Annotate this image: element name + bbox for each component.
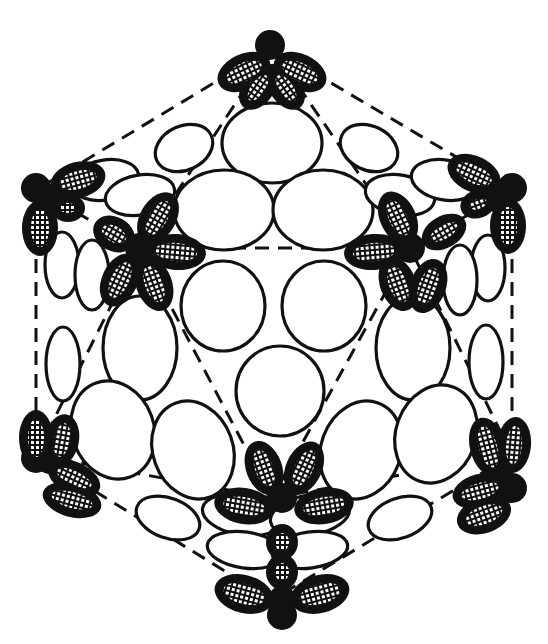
capsid-diagram bbox=[0, 0, 548, 644]
hatched-petal bbox=[499, 207, 517, 245]
penton-base-knob bbox=[267, 483, 297, 513]
penton-base-knob bbox=[21, 173, 51, 203]
hatched-petal bbox=[275, 563, 289, 581]
hexon-ellipse bbox=[46, 327, 80, 401]
hexon-ellipse bbox=[181, 261, 265, 351]
hexon-ellipse bbox=[469, 325, 503, 399]
hexon-ellipse bbox=[282, 261, 366, 351]
hatched-petal bbox=[60, 203, 76, 213]
penton-base-knob bbox=[267, 600, 297, 630]
penton-base-knob bbox=[125, 233, 155, 263]
penton-base-knob bbox=[395, 233, 425, 263]
penton-base-knob bbox=[497, 473, 527, 503]
hexon-ellipse bbox=[443, 245, 477, 315]
penton-base-knob bbox=[497, 173, 527, 203]
capsid-illustration bbox=[0, 0, 548, 644]
hatched-petal bbox=[275, 533, 289, 551]
hatched-petal bbox=[31, 209, 49, 247]
hatched-petal bbox=[28, 419, 44, 457]
penton-base-knob bbox=[255, 30, 285, 60]
hexon-ellipse bbox=[236, 346, 324, 436]
hexon-ellipse bbox=[333, 115, 406, 180]
